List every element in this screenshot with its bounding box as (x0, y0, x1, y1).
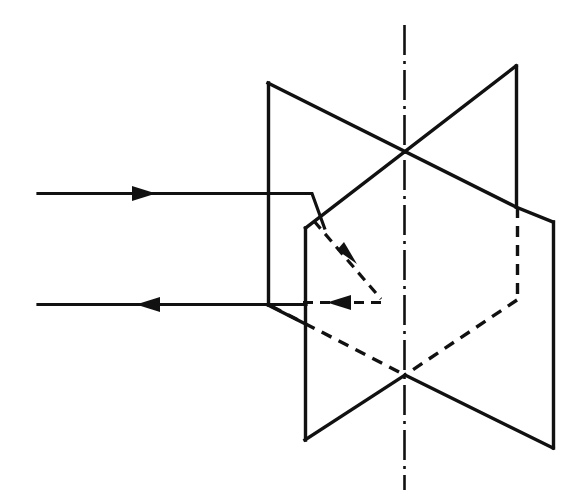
front-plane-hidden-diagonal-left (271, 306, 405, 375)
right-plane-top-edge (306, 66, 517, 228)
exit-ray-arrowhead (136, 297, 160, 312)
front-plane-bottom-right-edge (405, 375, 553, 448)
front-plane (271, 207, 554, 448)
front-plane-top-right-edge (516, 207, 553, 222)
internal-ray-down-line (314, 221, 381, 299)
rear-plane-right (306, 66, 517, 228)
incident-ray-line (38, 194, 325, 229)
internal-ray-back (300, 295, 381, 310)
internal-ray-back-arrowhead (327, 295, 351, 310)
incident-ray (38, 186, 325, 228)
left-plane-top-edge (268, 83, 516, 207)
exit-ray (38, 297, 306, 312)
front-plane-hidden-diagonal-right (405, 300, 517, 375)
incident-ray-arrowhead (132, 186, 156, 201)
internal-ray-down (314, 221, 381, 299)
optical-ray-diagram (0, 0, 584, 504)
front-plane-bottom-left-edge (305, 375, 405, 440)
diagram-canvas (0, 0, 584, 504)
